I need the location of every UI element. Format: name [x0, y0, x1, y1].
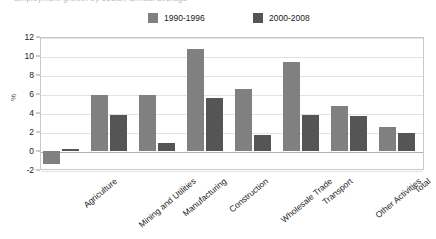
legend-label-2000-2008: 2000-2008 — [269, 13, 310, 23]
bar-group-construction — [184, 37, 232, 170]
bar-other-activities-1990-1996[interactable] — [331, 106, 348, 151]
legend-item-1990-1996[interactable]: 1990-1996 — [148, 11, 205, 25]
bar-wholesale-trade-2000-2008[interactable] — [254, 135, 271, 151]
y-tick-label-10: 10 — [25, 51, 34, 61]
bar-construction-1990-1996[interactable] — [187, 49, 204, 151]
x-tick-label-agriculture: Agriculture — [82, 176, 120, 210]
bar-wholesale-trade-1990-1996[interactable] — [235, 89, 252, 151]
bar-transport-1990-1996[interactable] — [283, 62, 300, 151]
y-tick-label-4: 4 — [29, 108, 34, 118]
y-tick-label-6: 6 — [29, 89, 34, 99]
bar-total-2000-2008[interactable] — [398, 133, 415, 151]
bar-group-other-activities — [328, 37, 376, 170]
y-tick-label-2: 2 — [29, 127, 34, 137]
bar-group-mining-and-utilities — [88, 37, 136, 170]
legend-label-1990-1996: 1990-1996 — [164, 13, 205, 23]
legend-swatch-2000-2008 — [253, 13, 263, 23]
bar-construction-2000-2008[interactable] — [206, 98, 223, 151]
legend-item-2000-2008[interactable]: 2000-2008 — [253, 11, 310, 25]
bar-group-wholesale-trade — [232, 37, 280, 170]
chart-legend: 1990-1996 2000-2008 — [0, 11, 436, 25]
legend-swatch-1990-1996 — [148, 13, 158, 23]
y-tick-label-12: 12 — [25, 32, 34, 42]
bar-other-activities-2000-2008[interactable] — [350, 116, 367, 151]
bar-mining-and-utilities-1990-1996[interactable] — [91, 95, 108, 151]
bar-group-transport — [280, 37, 328, 170]
y-tick-label-0: 0 — [29, 146, 34, 156]
bar-manufacturing-2000-2008[interactable] — [158, 143, 175, 151]
bar-group-agriculture — [40, 37, 88, 170]
y-tick-label-8: 8 — [29, 70, 34, 80]
x-tick-label-construction: Construction — [227, 176, 270, 214]
x-axis-labels: AgricultureMining and UtilitiesManufactu… — [0, 170, 436, 239]
y-axis-title: % — [9, 94, 18, 101]
bar-total-1990-1996[interactable] — [379, 127, 396, 151]
bar-mining-and-utilities-2000-2008[interactable] — [110, 115, 127, 151]
chart-title-strip: Employment growth by sector, annual aver… — [0, 0, 436, 9]
bar-agriculture-1990-1996[interactable] — [43, 151, 60, 164]
x-tick-label-other-activities: Other Activities — [373, 176, 423, 220]
bar-group-manufacturing — [136, 37, 184, 170]
page-title: Employment growth by sector, annual aver… — [14, 0, 187, 3]
bars-layer — [40, 37, 424, 170]
bar-agriculture-2000-2008[interactable] — [62, 149, 79, 151]
y-axis: -2024681012 — [0, 30, 40, 176]
bar-manufacturing-1990-1996[interactable] — [139, 95, 156, 151]
bar-group-total — [376, 37, 424, 170]
bar-transport-2000-2008[interactable] — [302, 115, 319, 151]
